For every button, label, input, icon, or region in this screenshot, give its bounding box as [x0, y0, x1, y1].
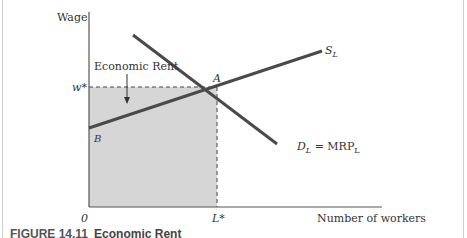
point-a-label: A — [212, 72, 221, 85]
figure-caption: FIGURE 14.11Economic Rent — [10, 227, 181, 238]
figure-number: FIGURE 14.11 — [10, 227, 88, 238]
demand-label: DL = MRPL — [296, 140, 360, 155]
figure-title: Economic Rent — [94, 227, 181, 238]
economic-rent-diagram: Wage Number of workers 0 w* L* Economic … — [0, 0, 467, 238]
point-b-label: B — [93, 133, 101, 144]
x-axis-label: Number of workers — [317, 212, 426, 225]
wage-star-label: w* — [72, 81, 87, 94]
origin-label: 0 — [81, 212, 88, 225]
supply-label: SL — [325, 44, 338, 59]
shaded-area — [89, 87, 217, 207]
y-axis-label: Wage — [57, 11, 87, 24]
quantity-star-label: L* — [211, 212, 225, 225]
economic-rent-label: Economic Rent — [94, 60, 179, 73]
